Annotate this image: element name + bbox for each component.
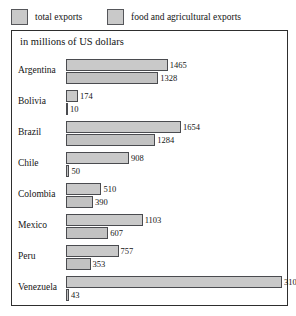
category-label-venezuela: Venezuela <box>18 282 66 293</box>
bar-peru-total: 757 <box>66 245 119 257</box>
category-label-bolivia: Bolivia <box>18 96 66 107</box>
bar-argentina-food: 1328 <box>66 72 158 84</box>
bar-brazil-food: 1284 <box>66 134 155 146</box>
legend-label-total-exports: total exports <box>35 12 82 23</box>
bar-value-label: 10 <box>70 104 79 114</box>
bar-peru-food: 353 <box>66 258 91 270</box>
bar-mexico-food: 607 <box>66 227 108 239</box>
bar-chile-food: 50 <box>66 165 69 177</box>
bar-group: 757353 <box>66 244 289 273</box>
bar-value-label: 3108 <box>284 277 296 287</box>
legend-swatch-total-exports-icon <box>11 9 28 25</box>
legend-label-food-agricultural-exports: food and agricultural exports <box>131 12 241 23</box>
bar-group: 17410 <box>66 89 289 118</box>
chart-plot-area: Argentina14651328Bolivia17410Brazil16541… <box>12 57 289 305</box>
bar-group: 90850 <box>66 151 289 180</box>
bar-value-label: 353 <box>93 259 106 269</box>
bar-value-label: 50 <box>71 166 80 176</box>
chart-row: Peru757353 <box>12 243 289 274</box>
bar-venezuela-total: 3108 <box>66 276 282 288</box>
bar-group: 14651328 <box>66 58 289 87</box>
bar-value-label: 390 <box>95 197 108 207</box>
chart-row: Brazil16541284 <box>12 119 289 150</box>
bar-bolivia-food: 10 <box>66 103 68 115</box>
bar-value-label: 607 <box>110 228 123 238</box>
bar-venezuela-food: 43 <box>66 289 69 301</box>
bar-colombia-total: 510 <box>66 183 101 195</box>
bar-group: 1103607 <box>66 213 289 242</box>
bar-value-label: 1328 <box>160 73 177 83</box>
bar-value-label: 1654 <box>183 122 200 132</box>
legend-item-total-exports: total exports <box>11 8 82 26</box>
bar-brazil-total: 1654 <box>66 121 181 133</box>
bar-bolivia-total: 174 <box>66 90 78 102</box>
chart-legend: total exports food and agricultural expo… <box>0 0 296 30</box>
bar-value-label: 510 <box>103 184 116 194</box>
category-label-mexico: Mexico <box>18 220 66 231</box>
bar-mexico-total: 1103 <box>66 214 143 226</box>
bar-group: 310843 <box>66 275 289 304</box>
bar-value-label: 174 <box>80 91 93 101</box>
chart-row: Chile90850 <box>12 150 289 181</box>
bar-value-label: 1465 <box>170 60 187 70</box>
chart-frame: in millions of US dollars Argentina14651… <box>11 30 288 306</box>
chart-row: Argentina14651328 <box>12 57 289 88</box>
chart-row: Venezuela310843 <box>12 274 289 305</box>
legend-item-food-agricultural-exports: food and agricultural exports <box>107 8 241 26</box>
bar-value-label: 757 <box>121 246 134 256</box>
legend-swatch-food-agricultural-exports-icon <box>107 9 124 25</box>
bar-chile-total: 908 <box>66 152 129 164</box>
chart-subtitle: in millions of US dollars <box>20 36 124 48</box>
bar-value-label: 1284 <box>157 135 174 145</box>
bar-value-label: 43 <box>71 290 80 300</box>
bar-group: 16541284 <box>66 120 289 149</box>
bar-colombia-food: 390 <box>66 196 93 208</box>
category-label-peru: Peru <box>18 251 66 262</box>
chart-row: Mexico1103607 <box>12 212 289 243</box>
category-label-argentina: Argentina <box>18 65 66 76</box>
category-label-colombia: Colombia <box>18 189 66 200</box>
chart-row: Bolivia17410 <box>12 88 289 119</box>
chart-row: Colombia510390 <box>12 181 289 212</box>
bar-value-label: 908 <box>131 153 144 163</box>
category-label-chile: Chile <box>18 158 66 169</box>
bar-argentina-total: 1465 <box>66 59 168 71</box>
bar-value-label: 1103 <box>145 215 162 225</box>
category-label-brazil: Brazil <box>18 127 66 138</box>
bar-group: 510390 <box>66 182 289 211</box>
